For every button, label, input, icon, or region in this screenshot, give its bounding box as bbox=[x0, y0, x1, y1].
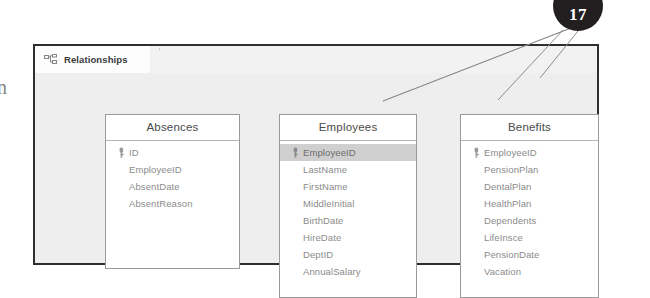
field-list: EmployeeIDPensionPlanDentalPlanHealthPla… bbox=[461, 141, 598, 280]
field-row[interactable]: PensionDate bbox=[461, 246, 598, 263]
field-name: MiddleInitial bbox=[303, 198, 354, 209]
field-row[interactable]: EmployeeID bbox=[106, 161, 239, 178]
field-row[interactable]: AbsentReason bbox=[106, 195, 239, 212]
tab-relationships[interactable]: Relationships bbox=[35, 46, 150, 73]
primary-key-icon bbox=[291, 147, 300, 158]
field-row[interactable]: ID bbox=[106, 144, 239, 161]
callout-badge-17: 17 bbox=[553, 0, 603, 31]
field-name: Vacation bbox=[484, 266, 521, 277]
field-name: AbsentReason bbox=[129, 198, 193, 209]
callout-number: 17 bbox=[569, 5, 587, 25]
field-row[interactable]: Dependents bbox=[461, 212, 598, 229]
tab-edge bbox=[150, 48, 160, 73]
field-row[interactable]: HireDate bbox=[280, 229, 416, 246]
field-name: HealthPlan bbox=[484, 198, 531, 209]
field-name: AnnualSalary bbox=[303, 266, 361, 277]
relationships-icon bbox=[44, 54, 57, 65]
primary-key-slot bbox=[113, 147, 129, 158]
field-name: FirstName bbox=[303, 181, 348, 192]
field-name: EmployeeID bbox=[484, 147, 537, 158]
table-box-employees[interactable]: EmployeesEmployeeIDLastNameFirstNameMidd… bbox=[279, 114, 417, 298]
field-name: EmployeeID bbox=[303, 147, 356, 158]
field-row[interactable]: PensionPlan bbox=[461, 161, 598, 178]
field-name: PensionDate bbox=[484, 249, 540, 260]
field-row[interactable]: FirstName bbox=[280, 178, 416, 195]
field-name: Dependents bbox=[484, 215, 536, 226]
field-name: AbsentDate bbox=[129, 181, 180, 192]
field-row[interactable]: MiddleInitial bbox=[280, 195, 416, 212]
field-name: DeptID bbox=[303, 249, 333, 260]
field-list: IDEmployeeIDAbsentDateAbsentReason bbox=[106, 141, 239, 212]
relationships-canvas[interactable]: AbsencesIDEmployeeIDAbsentDateAbsentReas… bbox=[35, 73, 597, 263]
table-title: Absences bbox=[106, 115, 239, 141]
table-title: Benefits bbox=[461, 115, 598, 141]
table-box-absences[interactable]: AbsencesIDEmployeeIDAbsentDateAbsentReas… bbox=[105, 114, 240, 269]
field-name: PensionPlan bbox=[484, 164, 538, 175]
field-name: DentalPlan bbox=[484, 181, 531, 192]
field-name: HireDate bbox=[303, 232, 341, 243]
field-row[interactable]: EmployeeID bbox=[280, 144, 416, 161]
field-name: ID bbox=[129, 147, 139, 158]
field-row[interactable]: LifeInsce bbox=[461, 229, 598, 246]
table-title: Employees bbox=[280, 115, 416, 141]
primary-key-icon bbox=[117, 147, 126, 158]
relationships-window: Relationships AbsencesIDEmployeeIDAbsent… bbox=[33, 44, 599, 265]
field-row[interactable]: LastName bbox=[280, 161, 416, 178]
field-row[interactable]: AbsentDate bbox=[106, 178, 239, 195]
field-row[interactable]: HealthPlan bbox=[461, 195, 598, 212]
field-name: EmployeeID bbox=[129, 164, 182, 175]
field-row[interactable]: AnnualSalary bbox=[280, 263, 416, 280]
field-name: BirthDate bbox=[303, 215, 344, 226]
document-tab-strip: Relationships bbox=[35, 46, 597, 74]
table-box-benefits[interactable]: BenefitsEmployeeIDPensionPlanDentalPlanH… bbox=[460, 114, 599, 298]
cropped-edge-glyph: n bbox=[0, 76, 7, 99]
field-list: EmployeeIDLastNameFirstNameMiddleInitial… bbox=[280, 141, 416, 280]
field-row[interactable]: BirthDate bbox=[280, 212, 416, 229]
field-name: LifeInsce bbox=[484, 232, 523, 243]
field-name: LastName bbox=[303, 164, 347, 175]
field-row[interactable]: Vacation bbox=[461, 263, 598, 280]
field-row[interactable]: DeptID bbox=[280, 246, 416, 263]
primary-key-icon bbox=[472, 147, 481, 158]
primary-key-slot bbox=[468, 147, 484, 158]
field-row[interactable]: EmployeeID bbox=[461, 144, 598, 161]
tab-label: Relationships bbox=[64, 54, 128, 65]
primary-key-slot bbox=[287, 147, 303, 158]
field-row[interactable]: DentalPlan bbox=[461, 178, 598, 195]
